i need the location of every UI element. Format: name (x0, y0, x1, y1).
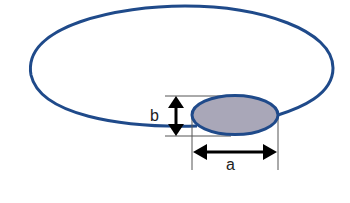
outer-loop (30, 6, 333, 126)
loop-diagram (0, 0, 350, 203)
label-b: b (150, 108, 159, 124)
cross-section-ellipse (192, 96, 278, 135)
arrowhead-b-bottom (168, 124, 184, 136)
arrowhead-a-right (263, 144, 277, 160)
arrowhead-b-top (168, 96, 184, 108)
label-a: a (226, 157, 235, 173)
arrowhead-a-left (193, 144, 207, 160)
